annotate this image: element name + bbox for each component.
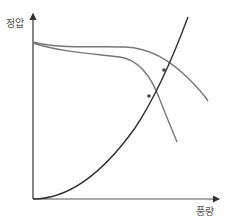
operating-point-2 [147,94,151,98]
performance-diagram [0,0,233,221]
y-axis-label: 정압 [6,15,24,30]
operating-point-1 [162,68,166,72]
x-axis-label: 풍량 [196,203,214,218]
system-curve [33,17,188,199]
fan-curve-upper [33,42,208,101]
